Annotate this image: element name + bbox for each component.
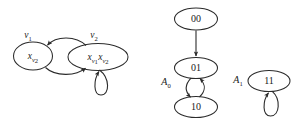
right-diagram: A0 A1 00 01 10 11 <box>160 8 290 118</box>
edge-11-self-loop <box>264 91 278 116</box>
figure-svg: v1 v2 xv2 xv1xv2 A0 A1 00 <box>0 0 295 122</box>
vertex-label-v1: v1 <box>24 30 32 41</box>
node-xv1xv2-label: xv1xv2 <box>87 52 109 64</box>
node-10-label: 10 <box>191 101 201 112</box>
edge-10-to-01 <box>200 79 205 98</box>
node-xv2-label: xv2 <box>27 51 38 63</box>
edge-xv2-to-xv1xv2 <box>46 68 86 75</box>
vertex-label-v2: v2 <box>90 30 98 41</box>
set-label-A0: A0 <box>160 76 171 88</box>
edge-xv1xv2-self-loop <box>95 70 108 95</box>
node-01-label: 01 <box>191 62 201 73</box>
left-diagram: v1 v2 xv2 xv1xv2 <box>14 30 129 95</box>
node-11-label: 11 <box>264 75 274 86</box>
edge-xv1xv2-to-xv2 <box>48 38 87 46</box>
figure-container: v1 v2 xv2 xv1xv2 A0 A1 00 <box>0 0 295 122</box>
edge-01-to-10 <box>186 78 191 97</box>
node-00-label: 00 <box>191 13 201 24</box>
set-label-A1: A1 <box>232 74 242 86</box>
